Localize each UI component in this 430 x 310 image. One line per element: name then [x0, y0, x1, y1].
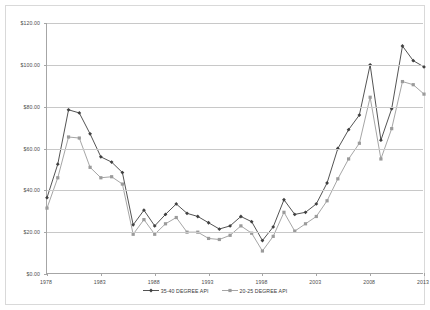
legend-entry-1[interactable]: 35-40 DEGREE API	[143, 287, 209, 294]
series-line	[47, 46, 424, 241]
marker-square	[358, 142, 361, 145]
x-axis-label: 1988	[148, 279, 160, 285]
y-axis-tick	[44, 190, 47, 191]
marker-square	[369, 96, 372, 99]
marker-square	[175, 216, 178, 219]
marker-diamond	[325, 181, 329, 185]
y-axis-label: $20.00	[6, 229, 40, 235]
marker-diamond	[88, 132, 92, 136]
marker-square	[99, 176, 102, 179]
plot-area	[46, 23, 423, 274]
y-axis-label: $60.00	[6, 146, 40, 152]
x-axis-label: 1983	[94, 279, 106, 285]
gridline-y	[47, 149, 423, 150]
legend-entry-2[interactable]: 20-25 DEGREE API	[222, 287, 288, 294]
marker-square	[207, 237, 210, 240]
marker-square	[325, 199, 328, 202]
marker-diamond	[56, 162, 60, 166]
x-axis-tick	[209, 273, 210, 276]
gridline-y	[47, 190, 423, 191]
chart-legend: 35-40 DEGREE API20-25 DEGREE API	[6, 287, 424, 294]
y-axis-tick	[44, 107, 47, 108]
x-axis-label: 1993	[202, 279, 214, 285]
x-axis-tick	[370, 273, 371, 276]
marker-square	[272, 235, 275, 238]
y-axis-label: $100.00	[6, 62, 40, 68]
y-axis-label: $80.00	[6, 104, 40, 110]
legend-label: 20-25 DEGREE API	[240, 288, 288, 294]
legend-diamond-marker-icon	[143, 287, 159, 294]
gridline-y	[47, 107, 423, 108]
y-axis-label: $0.00	[6, 271, 40, 277]
x-axis-tick	[47, 273, 48, 276]
x-axis-tick	[316, 273, 317, 276]
marker-square	[347, 157, 350, 160]
marker-diamond	[250, 220, 254, 224]
marker-square	[121, 182, 124, 185]
marker-diamond	[379, 138, 383, 142]
marker-square	[229, 234, 232, 237]
x-axis-tick	[424, 273, 425, 276]
chart-root: 35-40 DEGREE API20-25 DEGREE API $0.00$2…	[0, 0, 430, 310]
marker-square	[401, 80, 404, 83]
marker-diamond	[196, 215, 200, 219]
y-axis-tick	[44, 23, 47, 24]
marker-square	[110, 175, 113, 178]
marker-diamond	[67, 108, 71, 112]
marker-square	[56, 176, 59, 179]
x-axis-label: 2013	[417, 279, 429, 285]
marker-diamond	[207, 221, 211, 225]
x-axis-tick	[155, 273, 156, 276]
marker-square	[88, 166, 91, 169]
marker-square	[412, 83, 415, 86]
gridline-y	[47, 65, 423, 66]
marker-square	[315, 215, 318, 218]
y-axis-tick	[44, 149, 47, 150]
marker-square	[45, 207, 48, 210]
marker-square	[164, 222, 167, 225]
marker-diamond	[217, 227, 221, 231]
marker-diamond	[45, 196, 49, 200]
marker-diamond	[99, 155, 103, 159]
series-1	[45, 44, 426, 242]
marker-square	[261, 249, 264, 252]
marker-square	[336, 177, 339, 180]
marker-square	[142, 218, 145, 221]
x-axis-label: 1998	[255, 279, 267, 285]
marker-square	[304, 222, 307, 225]
x-axis-label: 2003	[309, 279, 321, 285]
y-axis-label: $40.00	[6, 187, 40, 193]
marker-diamond	[77, 111, 81, 115]
marker-square	[422, 93, 425, 96]
x-axis-tick	[262, 273, 263, 276]
gridline-y	[47, 23, 423, 24]
y-axis-tick	[44, 65, 47, 66]
chart-frame: 35-40 DEGREE API20-25 DEGREE API $0.00$2…	[5, 5, 425, 305]
marker-square	[379, 157, 382, 160]
legend-label: 35-40 DEGREE API	[161, 288, 209, 294]
marker-square	[282, 211, 285, 214]
x-axis-tick	[101, 273, 102, 276]
marker-square	[239, 224, 242, 227]
x-axis-label: 2008	[363, 279, 375, 285]
legend-square-marker-icon	[222, 287, 238, 294]
gridline-y	[47, 232, 423, 233]
x-axis-label: 1978	[40, 279, 52, 285]
marker-square	[218, 238, 221, 241]
y-axis-label: $120.00	[6, 20, 40, 26]
y-axis-tick	[44, 232, 47, 233]
marker-square	[390, 127, 393, 130]
marker-square	[78, 136, 81, 139]
marker-square	[67, 135, 70, 138]
